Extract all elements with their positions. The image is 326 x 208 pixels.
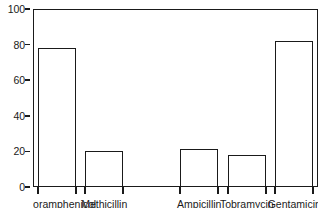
x-tick-mark <box>274 187 276 194</box>
y-tick-label: 0 <box>19 182 25 192</box>
x-tick-label: Tobramycin <box>220 199 274 208</box>
y-axis-tick-labels: 020406080100 <box>0 0 33 208</box>
x-tick-mark <box>75 187 77 194</box>
x-tick-mark <box>179 187 181 194</box>
x-tick-mark <box>312 187 314 194</box>
x-axis-tick-marks <box>33 187 318 196</box>
y-tick-label: 80 <box>14 40 25 50</box>
x-tick-mark <box>265 187 267 194</box>
y-tick-label: 40 <box>14 111 25 121</box>
x-tick-mark <box>227 187 229 194</box>
x-tick-label: Ampicillin <box>177 199 221 208</box>
bar <box>180 149 218 187</box>
x-tick-mark <box>84 187 86 194</box>
bar <box>85 151 123 187</box>
x-tick-mark <box>122 187 124 194</box>
y-tick-label: 100 <box>8 4 25 14</box>
x-tick-mark <box>217 187 219 194</box>
bar <box>275 41 313 187</box>
bars-layer <box>33 9 318 187</box>
y-tick-label: 20 <box>14 146 25 156</box>
x-axis-tick-labels: ChloramphenicolMethicillinAmpicillinTobr… <box>33 199 318 208</box>
x-tick-label: Methicillin <box>81 199 127 208</box>
bar-chart: 020406080100 ChloramphenicolMethicillinA… <box>0 0 326 208</box>
x-tick-label: Gentamicin <box>268 199 318 208</box>
bar <box>38 48 76 187</box>
x-tick-mark <box>37 187 39 194</box>
bar <box>228 155 266 187</box>
y-tick-label: 60 <box>14 75 25 85</box>
